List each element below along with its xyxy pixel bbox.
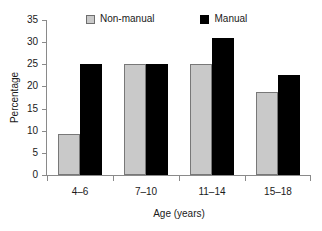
bar-manual (80, 64, 102, 175)
y-tick-mark (42, 109, 46, 110)
y-tick-mark (42, 42, 46, 43)
bar-non-manual (58, 134, 80, 175)
x-category-label: 15–18 (264, 186, 292, 198)
bar-non-manual (256, 92, 278, 175)
y-tick-mark (42, 86, 46, 87)
bar-non-manual (190, 64, 212, 175)
bar-manual (212, 38, 234, 175)
x-tick-mark (310, 176, 311, 181)
x-tick-mark (179, 176, 180, 181)
x-category-label: 4–6 (72, 186, 89, 198)
bar-manual (278, 75, 300, 175)
bar-group (190, 20, 234, 175)
x-tick-mark (113, 176, 114, 181)
x-axis-title: Age (years) (47, 208, 311, 220)
x-tick-mark (47, 176, 48, 181)
y-tick-mark (42, 153, 46, 154)
plot-area (47, 20, 311, 175)
y-tick-mark (42, 20, 46, 21)
y-tick-mark (42, 175, 46, 176)
y-tick-mark (42, 131, 46, 132)
x-tick-mark (245, 176, 246, 181)
x-category-label: 7–10 (135, 186, 157, 198)
bar-group (124, 20, 168, 175)
bar-group (256, 20, 300, 175)
bar-chart-figure: Non-manual Manual 05101520253035 4–67–10… (0, 0, 322, 231)
x-category-label: 11–14 (198, 186, 225, 198)
bar-group (58, 20, 102, 175)
bar-manual (146, 64, 168, 175)
y-tick-mark (42, 64, 46, 65)
bar-non-manual (124, 64, 146, 175)
y-axis-title: Percentage (8, 20, 22, 175)
